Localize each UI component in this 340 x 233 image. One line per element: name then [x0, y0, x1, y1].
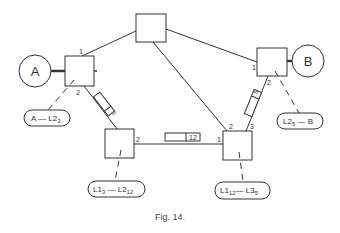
- port-left-2: 2: [76, 89, 80, 96]
- link-left-top: [82, 31, 136, 56]
- connection-label-l1-l3: L112— L35: [220, 186, 259, 196]
- port-br-1: 1: [217, 136, 221, 143]
- port-br-2: 2: [229, 123, 233, 130]
- figure-caption: Fig. 14.: [0, 212, 340, 222]
- terminal-b-label: B: [304, 54, 313, 69]
- port-br-3: 3: [250, 123, 254, 130]
- connection-label-l2-b: L25 — B: [283, 117, 313, 127]
- leader-a-l2: [48, 80, 74, 110]
- network-diagram: A B 1 2 1 2 2 1 2 3 3 12 5 A — L23 L13 —…: [0, 0, 340, 233]
- switch-bottom-right[interactable]: [223, 131, 252, 160]
- switch-right[interactable]: [257, 48, 287, 76]
- port-left-1: 1: [79, 48, 83, 55]
- link-top-right: [166, 29, 257, 62]
- port-right-2: 2: [267, 79, 271, 86]
- port-bl-2: 2: [136, 136, 140, 143]
- link-top-bottomright: [153, 42, 227, 131]
- terminal-a-label: A: [31, 64, 40, 79]
- switch-top[interactable]: [136, 14, 166, 42]
- switch-bottom-left[interactable]: [105, 129, 134, 158]
- port-right-1: 1: [252, 64, 256, 71]
- leader-l2-b: [275, 71, 299, 113]
- connection-label-a-l2: A — L23: [31, 114, 61, 124]
- link-tag-12-text: 12: [189, 134, 197, 141]
- switch-left[interactable]: [65, 56, 94, 86]
